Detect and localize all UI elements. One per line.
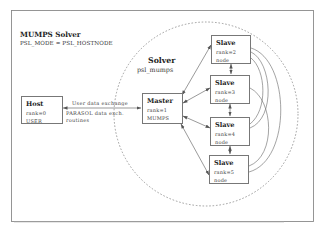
- master-slave3-arrow: [183, 88, 210, 103]
- slave-rank: rank=3: [215, 89, 249, 95]
- slave-rank: rank=2: [216, 49, 250, 55]
- master-slave5-arrow: [181, 124, 209, 175]
- host-rank: rank=0: [26, 110, 62, 116]
- slave-role: node: [215, 139, 249, 145]
- slave2-slave4-arc-b: [250, 58, 263, 124]
- slave-role: node: [214, 177, 248, 183]
- host-role: USER: [26, 118, 62, 124]
- edge-label-user-data-exchange: User data exchange: [72, 101, 128, 106]
- slave-title: Slave: [216, 39, 250, 47]
- solver-region-subtitle: psl_mumps: [137, 67, 173, 73]
- solver-region-title: Solver: [148, 57, 175, 65]
- slave-rank: rank=5: [214, 169, 248, 175]
- master-rank: rank=1: [147, 107, 182, 113]
- host-title: Host: [26, 100, 62, 108]
- slave2-slave4-arc: [250, 52, 268, 128]
- diagram-canvas: MUMPS Solver PSL_MODE = PSL_HOSTNODE Sol…: [0, 0, 324, 232]
- slave-node-rank4: Slave rank=4 node: [210, 117, 250, 146]
- master-slave4-arrow: [183, 116, 210, 128]
- host-node: Host rank=0 USER: [21, 96, 63, 124]
- diagram-title: MUMPS Solver: [20, 31, 81, 38]
- slave-title: Slave: [215, 121, 249, 129]
- slave-node-rank2: Slave rank=2 node: [211, 35, 251, 64]
- slave-node-rank3: Slave rank=3 node: [210, 75, 250, 104]
- slave2-slave5-arc: [249, 48, 281, 172]
- mode-line: PSL_MODE = PSL_HOSTNODE: [20, 41, 113, 47]
- edge-label-parasol-data-exch: PARASOL data exch.: [66, 111, 124, 116]
- slave-node-rank5: Slave rank=5 node: [209, 155, 249, 184]
- slave-rank: rank=4: [215, 131, 249, 137]
- master-node: Master rank=1 MUMPS: [142, 93, 183, 124]
- master-title: Master: [147, 97, 182, 105]
- edge-label-routines: routines: [66, 118, 89, 123]
- master-slave2-arrow: [182, 45, 211, 95]
- slave-role: node: [215, 97, 249, 103]
- slave-role: node: [216, 57, 250, 63]
- slave-title: Slave: [214, 159, 248, 167]
- master-role: MUMPS: [147, 115, 182, 121]
- slave-title: Slave: [215, 79, 249, 87]
